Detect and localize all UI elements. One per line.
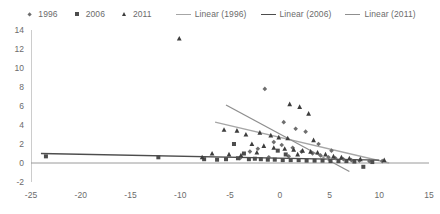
data-point-triangle — [222, 127, 227, 132]
y-tick-label: 10 — [4, 63, 24, 73]
line-swatch-icon — [345, 14, 360, 15]
diamond-marker-icon — [24, 9, 35, 19]
legend-label: 2006 — [86, 9, 105, 19]
data-point-square — [215, 158, 219, 162]
data-point-triangle — [287, 102, 292, 107]
data-point-triangle — [210, 151, 215, 156]
data-point-triangle — [244, 132, 249, 137]
data-point-triangle — [282, 146, 287, 151]
data-point-diamond — [256, 146, 261, 151]
data-point-square — [253, 157, 257, 161]
legend-label: Linear (1996) — [195, 9, 247, 19]
data-point-diamond — [303, 129, 308, 134]
legend-label: 1996 — [38, 9, 57, 19]
data-point-square — [370, 160, 374, 164]
data-point-square — [361, 165, 365, 169]
data-point-triangle — [347, 156, 352, 161]
data-point-square — [247, 157, 251, 161]
data-point-triangle — [306, 111, 311, 116]
legend-item-linear-2011[interactable]: Linear (2011) — [345, 9, 415, 19]
data-point-square — [232, 142, 236, 146]
data-point-square — [336, 159, 340, 163]
y-tick-label: 6 — [4, 101, 24, 111]
line-swatch-icon — [176, 14, 191, 15]
y-tick-label: 0 — [4, 158, 24, 168]
data-point-triangle — [271, 145, 276, 150]
data-point-square — [44, 154, 48, 158]
data-point-square — [313, 159, 317, 163]
y-tick-label: 14 — [4, 25, 24, 35]
legend-item-2006[interactable]: 2006 — [72, 9, 105, 19]
data-point-square — [297, 158, 301, 162]
data-point-diamond — [279, 143, 284, 148]
y-tick-label: -2 — [4, 177, 24, 187]
data-point-triangle — [311, 138, 316, 143]
data-point-square — [156, 155, 160, 159]
data-point-square — [305, 159, 309, 163]
data-point-triangle — [235, 128, 240, 133]
data-point-triangle — [358, 157, 363, 162]
data-point-square — [266, 158, 270, 162]
x-tick-label: 10 — [366, 190, 392, 200]
legend-label: Linear (2006) — [280, 9, 332, 19]
data-point-square — [273, 158, 277, 162]
data-point-square — [259, 157, 263, 161]
data-point-triangle — [339, 155, 344, 160]
legend-item-linear-1996[interactable]: Linear (1996) — [176, 9, 247, 19]
legend-label: Linear (2011) — [364, 9, 415, 19]
data-point-square — [224, 157, 228, 161]
data-point-triangle — [249, 141, 254, 146]
y-tick-label: 4 — [4, 120, 24, 130]
x-tick-label: -20 — [68, 190, 94, 200]
data-point-square — [284, 152, 288, 156]
data-point-triangle — [331, 154, 336, 159]
x-tick-label: -10 — [167, 190, 193, 200]
x-tick-label: -5 — [217, 190, 243, 200]
scatter-plot-svg — [31, 30, 429, 182]
data-point-square — [328, 159, 332, 163]
square-marker-icon — [72, 9, 83, 19]
data-point-triangle — [315, 150, 320, 155]
data-point-square — [352, 160, 356, 164]
legend-item-2011[interactable]: 2011 — [119, 9, 152, 19]
data-point-square — [289, 158, 293, 162]
x-tick-label: 0 — [267, 190, 293, 200]
legend-label: 2011 — [133, 9, 152, 19]
data-point-triangle — [227, 152, 232, 157]
line-swatch-icon — [261, 14, 276, 15]
legend-item-1996[interactable]: 1996 — [24, 9, 57, 19]
data-point-square — [321, 159, 325, 163]
triangle-marker-icon — [119, 9, 130, 19]
data-point-square — [242, 152, 246, 156]
y-tick-label: 2 — [4, 139, 24, 149]
data-point-triangle — [297, 104, 302, 109]
data-point-diamond — [248, 149, 253, 154]
y-tick-label: 12 — [4, 44, 24, 54]
data-point-triangle — [177, 36, 182, 41]
data-point-square — [276, 149, 280, 153]
x-tick-label: 5 — [317, 190, 343, 200]
legend-item-linear-2006[interactable]: Linear (2006) — [261, 9, 332, 19]
x-tick-label: -15 — [118, 190, 144, 200]
data-point-diamond — [271, 140, 276, 145]
data-point-diamond — [263, 87, 268, 92]
data-point-diamond — [281, 120, 286, 125]
chart-legend: 1996 2006 2011 Linear (1996) Linear (200… — [0, 6, 440, 22]
data-point-triangle — [261, 143, 266, 148]
chart-root: 1996 2006 2011 Linear (1996) Linear (200… — [0, 0, 440, 214]
data-point-triangle — [295, 152, 300, 157]
plot-area — [31, 30, 429, 182]
x-tick-label: 15 — [416, 190, 440, 200]
x-tick-label: -25 — [18, 190, 44, 200]
data-point-triangle — [254, 150, 259, 155]
y-tick-label: 8 — [4, 82, 24, 92]
data-point-diamond — [293, 127, 298, 132]
data-point-square — [281, 158, 285, 162]
data-point-triangle — [323, 152, 328, 157]
